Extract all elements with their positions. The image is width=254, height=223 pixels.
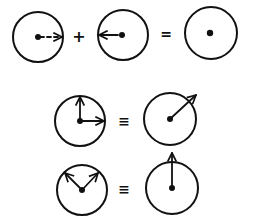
row-v-sum: ≡ [57, 153, 198, 215]
arrow-up-left-icon [65, 173, 82, 190]
equals-operator: = [160, 26, 172, 42]
arrow-up-right-icon [82, 173, 98, 190]
vector-addition-diagram: + = ≡ [0, 0, 254, 223]
circle-vector-left [98, 10, 148, 60]
equivalent-operator: ≡ [118, 181, 130, 197]
row-cancellation: + = [13, 7, 237, 62]
equivalent-operator: ≡ [118, 113, 130, 129]
circle-vector-right-dashed [13, 12, 63, 62]
circle-resultant-vertical [146, 153, 198, 214]
row-perpendicular-sum: ≡ [55, 93, 196, 146]
circle-resultant-diagonal [144, 93, 196, 145]
circle-two-diagonal-vectors [57, 165, 107, 215]
circle-zero-vector [185, 7, 237, 59]
circle-two-perpendicular-vectors [55, 96, 105, 146]
plus-operator: + [72, 27, 85, 46]
